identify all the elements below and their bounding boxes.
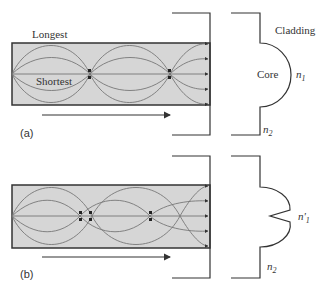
longest-label: Longest [32,28,67,40]
graded-index-fiber-diagram: Longest Shortest (a) Cladding Core n1 n2 [0,0,321,288]
panel-b-label: (b) [20,268,33,280]
shortest-label: Shortest [36,75,72,87]
cladding-index-n2-a: n2 [263,123,273,138]
panel-a: Longest Shortest (a) Cladding Core n1 n2 [12,13,316,139]
core-index-n1: n1 [296,68,306,83]
index-profile-b [231,156,290,278]
panel-b: (b) n'1 n2 [12,156,310,280]
core-index-n1-prime: n'1 [298,210,310,225]
cladding-label: Cladding [275,24,316,36]
core-label: Core [257,68,279,80]
panel-a-label: (a) [20,127,33,139]
cladding-index-n2-b: n2 [267,260,277,275]
